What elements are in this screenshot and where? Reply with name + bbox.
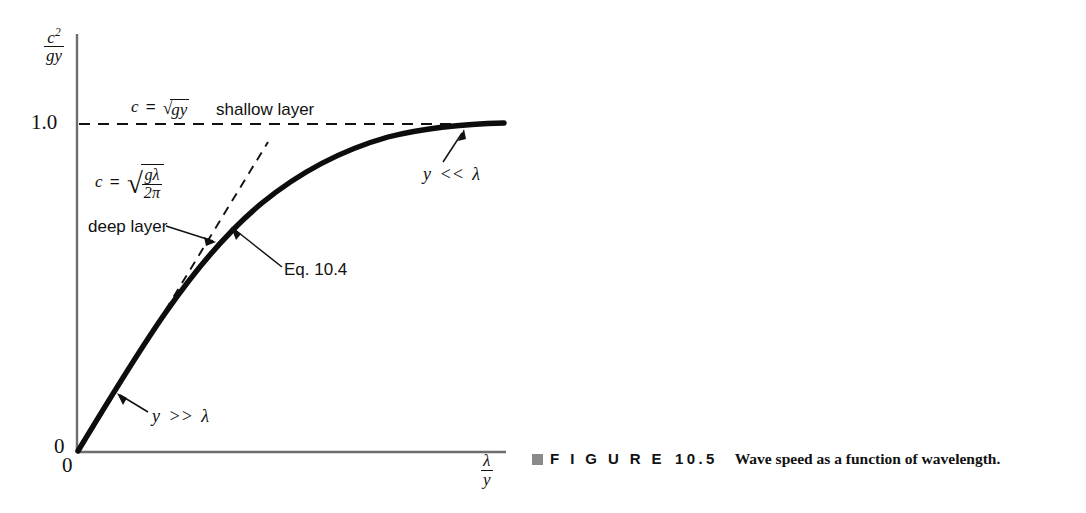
- y-axis-numerator-base: c: [47, 28, 55, 47]
- figure-word: F I G U R E: [550, 450, 665, 467]
- deep-eq-lhs: c: [95, 172, 103, 191]
- y-axis-denominator: gy: [44, 46, 64, 65]
- y-axis-numerator: c2: [44, 27, 64, 46]
- shallow-eq-equals: =: [146, 97, 156, 116]
- y-much-less-leader-line: [443, 133, 462, 162]
- shallow-layer-text: shallow layer: [216, 101, 314, 118]
- y-axis-tick-1.0: 1.0: [31, 112, 57, 133]
- asymptote-upper-relation: <<: [440, 164, 464, 184]
- square-marker-icon: [532, 454, 543, 465]
- figure-caption: F I G U R E10.5Wave speed as a function …: [532, 449, 1052, 469]
- x-axis-denominator: y: [481, 470, 493, 489]
- deep-layer-text: deep layer: [88, 218, 167, 235]
- y-axis-label: c2 gy: [44, 27, 64, 65]
- shallow-eq-lhs: c: [131, 97, 139, 116]
- y-much-greater-arrowhead: [117, 393, 127, 405]
- x-axis-origin-label: 0: [62, 455, 73, 476]
- deep-eq-numerator: gλ: [142, 167, 162, 184]
- x-axis-numerator: λ: [481, 452, 493, 470]
- asymptote-lower-relation: >>: [169, 406, 193, 426]
- y-axis-numerator-exponent: 2: [55, 26, 61, 39]
- eq-10-4-leader-line: [234, 229, 282, 267]
- asymptote-lower-label: y >> λ: [152, 407, 209, 425]
- asymptote-lower-variable: y: [152, 406, 160, 426]
- asymptote-upper-label: y << λ: [423, 165, 480, 183]
- deep-eq-radical: √ gλ 2π: [127, 164, 164, 202]
- shallow-eq-radicand: gy: [170, 99, 189, 118]
- deep-eq-fraction: gλ 2π: [141, 164, 164, 202]
- deep-layer-equation: c = √ gλ 2π: [95, 164, 164, 202]
- equation-reference-label: Eq. 10.4: [284, 261, 347, 278]
- deep-eq-equals: =: [110, 172, 120, 191]
- x-axis-label: λ y: [481, 452, 493, 488]
- asymptote-upper-variable: y: [423, 164, 431, 184]
- plot-svg: [0, 0, 1086, 513]
- shallow-eq-radical: √gy: [163, 98, 189, 118]
- figure-caption-text: Wave speed as a function of wavelength.: [735, 450, 1001, 467]
- figure-number: 10.5: [675, 450, 718, 467]
- figure-container: c2 gy 1.0 0 0 λ y c = √gy shallow layer …: [0, 0, 1086, 513]
- deep-eq-denominator: 2π: [142, 184, 162, 202]
- y-much-less-arrowhead: [458, 129, 466, 141]
- asymptote-lower-lambda: λ: [201, 406, 209, 426]
- asymptote-upper-lambda: λ: [472, 164, 480, 184]
- shallow-layer-equation: c = √gy: [131, 98, 189, 118]
